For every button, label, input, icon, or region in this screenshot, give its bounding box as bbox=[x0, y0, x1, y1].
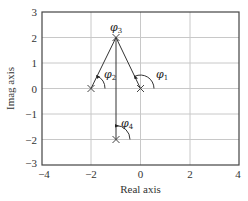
arrowhead-phi4 bbox=[115, 124, 119, 128]
arc-arrowheads bbox=[96, 75, 138, 128]
svg-text:0: 0 bbox=[32, 83, 38, 95]
svg-text:2: 2 bbox=[187, 168, 193, 180]
svg-text:4: 4 bbox=[235, 168, 241, 180]
svg-text:−2: −2 bbox=[25, 134, 37, 146]
svg-text:3: 3 bbox=[32, 6, 38, 18]
y-ticks: 3 2 1 0 −1 −2 −3 bbox=[25, 6, 37, 169]
svg-text:0: 0 bbox=[138, 168, 144, 180]
x-ticks: −4 −2 0 2 4 bbox=[38, 168, 241, 180]
label-phi1: φ1 bbox=[156, 68, 168, 82]
x-axis-label: Real axis bbox=[120, 183, 161, 195]
svg-text:−3: −3 bbox=[25, 157, 37, 169]
svg-text:−4: −4 bbox=[38, 168, 50, 180]
svg-text:1: 1 bbox=[32, 57, 38, 69]
label-phi3: φ3 bbox=[110, 21, 122, 35]
root-locus-diagram: φ1 φ2 φ3 φ4 3 2 1 0 −1 −2 −3 −4 −2 0 2 4… bbox=[0, 0, 248, 201]
y-axis-label: Imag axis bbox=[4, 67, 16, 110]
label-phi4: φ4 bbox=[121, 117, 134, 131]
svg-text:2: 2 bbox=[32, 32, 38, 44]
svg-text:−1: −1 bbox=[25, 108, 37, 120]
label-phi2: φ2 bbox=[104, 68, 116, 82]
svg-text:−2: −2 bbox=[85, 168, 97, 180]
